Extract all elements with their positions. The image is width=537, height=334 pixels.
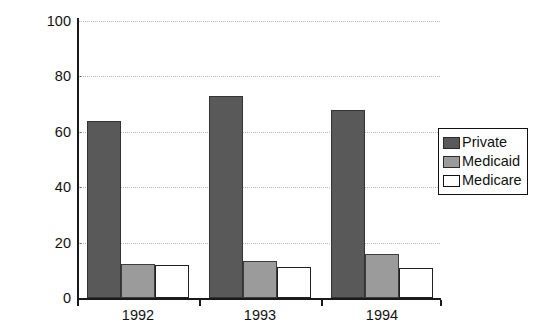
y-axis-tick-label: 40 xyxy=(33,180,71,195)
x-axis-tick-mark xyxy=(77,300,79,306)
x-axis-tick-label: 1993 xyxy=(215,307,305,323)
gridline xyxy=(77,132,440,133)
bar-medicaid-1994 xyxy=(365,254,399,298)
x-axis-line xyxy=(77,298,441,300)
bar-private-1994 xyxy=(331,110,365,298)
bar-medicare-1994 xyxy=(399,268,433,298)
y-axis-tick-label: 20 xyxy=(33,236,71,251)
legend-swatch-medicare-icon xyxy=(443,175,460,187)
y-axis-tick-label: 60 xyxy=(33,125,71,140)
legend-label-medicare: Medicare xyxy=(462,173,522,188)
x-axis-tick-mark xyxy=(199,300,201,306)
bar-medicaid-1992 xyxy=(121,264,155,298)
legend-swatch-medicaid-icon xyxy=(443,156,460,168)
y-axis-tick-labels: 020406080100 xyxy=(26,21,71,298)
legend: Private Medicaid Medicare xyxy=(438,128,528,195)
bar-medicare-1992 xyxy=(155,265,189,298)
gridline xyxy=(77,243,440,244)
y-axis-tick-label: 100 xyxy=(33,14,71,29)
legend-label-medicaid: Medicaid xyxy=(462,154,520,169)
bar-private-1992 xyxy=(87,121,121,298)
legend-item-medicare: Medicare xyxy=(443,171,522,190)
legend-item-private: Private xyxy=(443,133,522,152)
x-axis-tick-mark xyxy=(440,300,442,306)
bar-medicaid-1993 xyxy=(243,261,277,298)
gridline xyxy=(77,21,440,22)
y-axis-tick-label: 0 xyxy=(33,291,71,306)
x-axis-tick-mark xyxy=(321,300,323,306)
legend-swatch-private-icon xyxy=(443,137,460,149)
bar-chart: Percent with Coverage 020406080100 19921… xyxy=(0,0,537,334)
bar-medicare-1993 xyxy=(277,267,311,298)
legend-item-medicaid: Medicaid xyxy=(443,152,522,171)
gridline xyxy=(77,187,440,188)
gridline xyxy=(77,76,440,77)
x-axis-tick-label: 1992 xyxy=(93,307,183,323)
y-axis-line xyxy=(77,18,79,300)
bar-private-1993 xyxy=(209,96,243,298)
legend-label-private: Private xyxy=(462,135,507,150)
y-axis-tick-label: 80 xyxy=(33,69,71,84)
x-axis-tick-label: 1994 xyxy=(337,307,427,323)
plot-area xyxy=(77,21,440,298)
